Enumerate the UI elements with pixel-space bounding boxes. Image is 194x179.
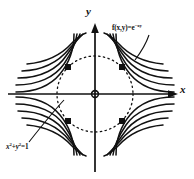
leader-lines-group: [29, 35, 149, 142]
contour-group-quadrant-1: [104, 33, 174, 92]
extremum-point-marker: [65, 64, 71, 70]
contour-function-prefix: f(x,y)=e: [112, 24, 135, 32]
y-axis-label: y: [86, 6, 91, 17]
contour-function-label: f(x,y)=e−xy: [112, 25, 142, 32]
x-axis-label: x: [180, 84, 186, 95]
contour-curve: [104, 33, 163, 64]
extremum-point-marker: [119, 118, 125, 124]
contour-curve: [27, 33, 86, 64]
extremum-point-marker: [119, 64, 125, 70]
y-axis-arrowhead: [91, 23, 99, 33]
contour-curve: [104, 125, 163, 156]
contour-curve: [27, 125, 86, 156]
constraint-curve-label: x2+y2=1: [6, 144, 29, 151]
plot-canvas: [0, 0, 194, 179]
extremum-point-marker: [65, 118, 71, 124]
axes-group: [8, 23, 178, 172]
contour-group-quadrant-2: [16, 33, 86, 92]
contour-plot-figure: x y f(x,y)=e−xy x2+y2=1: [0, 0, 194, 179]
contour-label-leader-line: [135, 35, 149, 60]
constraint-equals-value: =1: [21, 143, 29, 151]
contour-function-exponent: −xy: [135, 23, 142, 28]
